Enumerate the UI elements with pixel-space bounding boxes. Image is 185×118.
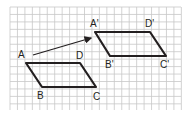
translation-diagram: ABCDA'B'C'D' <box>0 0 185 118</box>
vertex-label: D' <box>145 18 154 29</box>
vertex-label: A <box>18 49 25 60</box>
vertex-label: C <box>93 91 100 102</box>
vertex-labels: ABCDA'B'C'D' <box>18 18 169 102</box>
vertex-label: A' <box>90 18 99 29</box>
vertex-label: B <box>37 90 44 101</box>
vertex-label: C' <box>160 59 169 70</box>
vertex-label: D <box>76 50 83 61</box>
vertex-label: B' <box>105 59 114 70</box>
